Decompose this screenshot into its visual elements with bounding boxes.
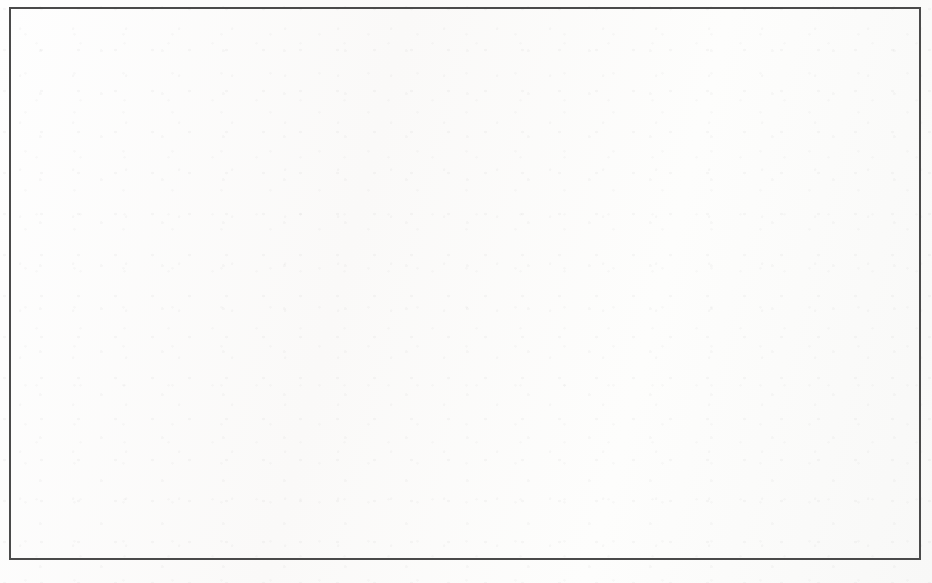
stacked-area-chart	[0, 0, 932, 583]
